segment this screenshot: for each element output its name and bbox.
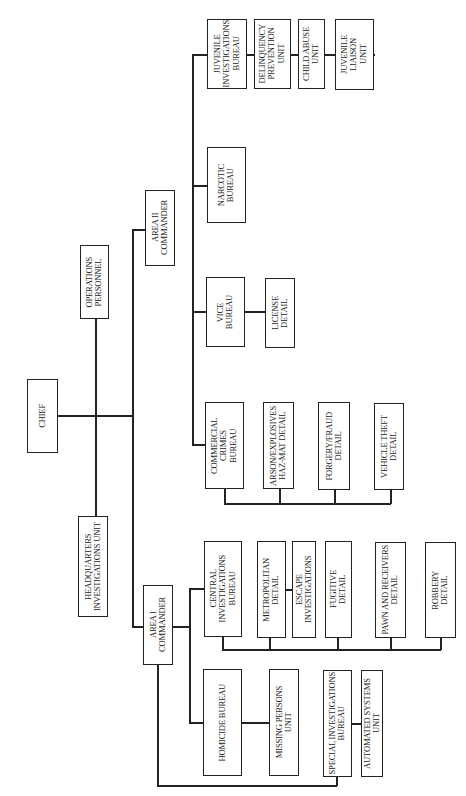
node-license-detail: LICENSE DETAIL	[265, 278, 295, 348]
connector	[224, 503, 391, 505]
node-label: FUGITIVE DETAIL	[329, 570, 348, 608]
node-label: ARSON/EXPLOSIVES HAZ-MAT DETAIL	[269, 406, 288, 486]
node-label: COMMERCIAL CRIMES BUREAU	[210, 403, 238, 488]
node-label: AREA II COMMANDER	[151, 200, 170, 255]
node-hq-investigations-unit: HEADQUARTERS INVESTIGATIONS UNIT	[78, 516, 108, 617]
node-special-investigations-bureau: SPECIAL INVESTIGATIONS BUREAU	[323, 670, 352, 777]
connector	[390, 490, 392, 504]
connector	[189, 722, 203, 724]
node-label: SPECIAL INVESTIGATIONS BUREAU	[328, 672, 347, 774]
connector	[242, 722, 269, 724]
connector	[132, 229, 145, 231]
node-forgery-fraud-detail: FORGERY/FRAUD DETAIL	[318, 402, 350, 490]
connector	[334, 490, 336, 504]
connector	[189, 588, 191, 723]
connector	[352, 723, 361, 725]
node-label: AUTOMATED SYSTEMS UNIT	[363, 671, 382, 776]
node-child-abuse-unit: CHILD ABUSE UNIT	[298, 19, 325, 89]
node-label: NARCOTIC BUREAU	[217, 164, 236, 206]
node-operations-personnel: OPERATIONS PERSONNEL	[80, 245, 109, 319]
node-label: AREA I COMMANDER	[149, 597, 168, 652]
node-pawn-receivers-detail: PAWN AND RECEIVERS DETAIL	[375, 542, 406, 638]
node-label: ROBBERY DETAIL	[431, 571, 450, 610]
node-arson-explosives-detail: ARSON/EXPLOSIVES HAZ-MAT DETAIL	[263, 402, 294, 489]
node-robbery-detail: ROBBERY DETAIL	[425, 542, 456, 638]
node-delinquency-prevention-unit: DELINQUENCY PREVENTION UNIT	[254, 19, 291, 89]
node-fugitive-detail: FUGITIVE DETAIL	[325, 541, 352, 638]
connector	[132, 229, 134, 627]
node-homicide-bureau: HOMICIDE BUREAU	[203, 669, 242, 776]
connector	[192, 444, 205, 446]
node-label: JUVENILE INVESTIGATIONS BUREAU	[213, 20, 241, 87]
connector	[157, 785, 337, 787]
node-label: OPERATIONS PERSONNEL	[85, 257, 104, 308]
node-area1-commander: AREA I COMMANDER	[143, 585, 173, 665]
connector	[189, 588, 204, 590]
node-chief: CHIEF	[27, 379, 58, 453]
node-metropolitan-detail: METROPOLITAN DETAIL	[257, 541, 286, 638]
org-chart: CHIEF OPERATIONS PERSONNEL HEADQUARTERS …	[0, 0, 466, 796]
node-escape-investigations: ESCAPE INVESTIGATIONS	[292, 541, 316, 638]
node-label: VEHICLE THEFT DETAIL	[380, 415, 399, 478]
node-label: FORGERY/FRAUD DETAIL	[325, 412, 344, 481]
node-vice-bureau: VICE BUREAU	[206, 277, 245, 347]
node-juvenile-liaison-unit: JUVENILE LIAISON UNIT	[335, 19, 374, 90]
connector	[336, 777, 338, 786]
node-commercial-crimes-bureau: COMMERCIAL CRIMES BUREAU	[205, 402, 244, 489]
connector	[132, 626, 143, 628]
node-label: ESCAPE INVESTIGATIONS	[295, 542, 314, 637]
connector	[192, 54, 207, 56]
node-label: JUVENILE LIAISON UNIT	[340, 35, 368, 74]
node-area2-commander: AREA II COMMANDER	[145, 190, 175, 266]
node-automated-systems-unit: AUTOMATED SYSTEMS UNIT	[361, 670, 383, 777]
node-label: CENTRAL INVESTIGATIONS BUREAU	[209, 555, 237, 622]
node-label: LICENSE DETAIL	[271, 296, 290, 330]
node-label: CHIEF	[38, 404, 47, 428]
connector	[157, 665, 159, 786]
connector	[222, 649, 441, 651]
node-label: HEADQUARTERS INVESTIGATIONS UNIT	[84, 522, 103, 611]
node-label: MISSING PERSONS UNIT	[275, 686, 294, 758]
connector	[95, 319, 97, 516]
node-label: METROPOLITAN DETAIL	[262, 558, 281, 622]
node-vehicle-theft-detail: VEHICLE THEFT DETAIL	[374, 403, 404, 490]
connector	[192, 311, 206, 313]
connector	[192, 185, 207, 187]
node-central-investigations-bureau: CENTRAL INVESTIGATIONS BUREAU	[204, 541, 242, 637]
node-juvenile-investigations-bureau: JUVENILE INVESTIGATIONS BUREAU	[207, 19, 247, 89]
node-narcotic-bureau: NARCOTIC BUREAU	[207, 147, 246, 223]
connector	[279, 489, 281, 504]
connector	[245, 311, 265, 313]
node-label: VICE BUREAU	[216, 295, 235, 329]
connector	[224, 489, 226, 504]
connector	[173, 626, 190, 628]
node-missing-persons-unit: MISSING PERSONS UNIT	[269, 669, 299, 776]
node-label: CHILD ABUSE UNIT	[302, 27, 321, 81]
connector	[192, 54, 194, 445]
node-label: PAWN AND RECEIVERS DETAIL	[381, 545, 400, 634]
node-label: DELINQUENCY PREVENTION UNIT	[258, 24, 286, 83]
node-label: HOMICIDE BUREAU	[218, 684, 227, 761]
